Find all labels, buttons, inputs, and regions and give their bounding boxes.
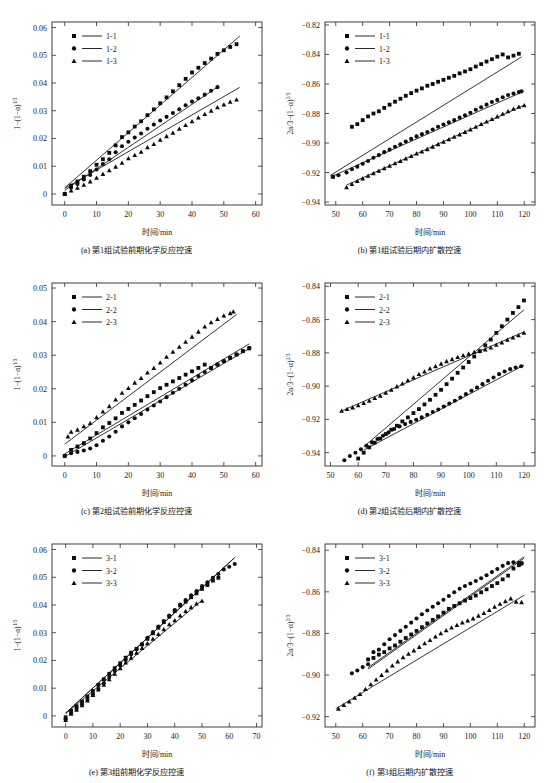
svg-text:120: 120 — [518, 732, 530, 741]
caption-f: (f) 第3组后期内扩散控速 — [273, 765, 546, 777]
svg-text:−0.92: −0.92 — [301, 415, 320, 424]
svg-text:90: 90 — [439, 732, 447, 741]
svg-text:−0.90: −0.90 — [301, 382, 320, 391]
svg-text:90: 90 — [439, 210, 447, 219]
subplot-c: 010203040506000.010.020.030.040.05时间/min… — [0, 261, 273, 522]
svg-text:110: 110 — [490, 471, 502, 480]
svg-text:时间/min: 时间/min — [142, 227, 173, 237]
svg-text:2-2: 2-2 — [379, 306, 390, 315]
svg-text:0.06: 0.06 — [33, 24, 47, 33]
svg-text:−0.84: −0.84 — [301, 50, 320, 59]
svg-text:60: 60 — [252, 471, 260, 480]
svg-text:−0.88: −0.88 — [301, 629, 320, 638]
svg-text:2-3: 2-3 — [379, 318, 390, 327]
svg-text:−0.86: −0.86 — [301, 588, 320, 597]
svg-text:0: 0 — [63, 471, 67, 480]
svg-text:时间/min: 时间/min — [142, 749, 173, 759]
svg-text:−0.86: −0.86 — [301, 80, 320, 89]
svg-text:110: 110 — [491, 210, 503, 219]
svg-text:30: 30 — [156, 210, 164, 219]
svg-text:1-1: 1-1 — [379, 32, 390, 41]
svg-text:60: 60 — [252, 210, 260, 219]
svg-text:40: 40 — [188, 471, 196, 480]
svg-text:3-1: 3-1 — [106, 554, 117, 563]
svg-text:1-3: 1-3 — [106, 57, 117, 66]
svg-text:0.05: 0.05 — [33, 51, 47, 60]
svg-text:50: 50 — [332, 210, 340, 219]
svg-text:2-1: 2-1 — [379, 293, 390, 302]
svg-text:时间/min: 时间/min — [142, 488, 173, 498]
svg-text:3-1: 3-1 — [379, 554, 390, 563]
svg-text:0.02: 0.02 — [33, 134, 47, 143]
svg-text:0.03: 0.03 — [33, 629, 47, 638]
svg-text:−0.90: −0.90 — [301, 671, 320, 680]
svg-text:3-3: 3-3 — [106, 579, 117, 588]
svg-text:时间/min: 时间/min — [415, 749, 446, 759]
svg-text:1-3: 1-3 — [379, 57, 390, 66]
subplot-e: 01020304050607000.010.020.030.040.050.06… — [0, 522, 273, 783]
svg-text:0.05: 0.05 — [33, 573, 47, 582]
svg-text:0.02: 0.02 — [33, 385, 47, 394]
svg-text:−0.92: −0.92 — [301, 713, 320, 722]
svg-text:0.01: 0.01 — [33, 162, 47, 171]
svg-text:3-3: 3-3 — [379, 579, 390, 588]
svg-text:0.04: 0.04 — [33, 318, 47, 327]
svg-text:时间/min: 时间/min — [415, 488, 446, 498]
svg-text:80: 80 — [409, 471, 417, 480]
caption-b: (b) 第1组试验后期内扩散控速 — [273, 243, 546, 255]
caption-e: (e) 第3组前期化学反应控速 — [0, 765, 273, 777]
svg-text:0: 0 — [43, 190, 47, 199]
svg-text:3-2: 3-2 — [106, 567, 117, 576]
svg-text:−0.90: −0.90 — [301, 139, 320, 148]
svg-text:−0.82: −0.82 — [301, 21, 320, 30]
svg-text:50: 50 — [220, 210, 228, 219]
svg-text:40: 40 — [188, 210, 196, 219]
svg-text:2-1: 2-1 — [106, 293, 117, 302]
svg-text:0.04: 0.04 — [33, 79, 47, 88]
svg-text:50: 50 — [220, 471, 228, 480]
svg-text:2α/3−(1−α)2/3: 2α/3−(1−α)2/3 — [285, 92, 295, 134]
svg-text:时间/min: 时间/min — [415, 227, 446, 237]
svg-text:60: 60 — [359, 732, 367, 741]
subplot-f: 5060708090100110120−0.92−0.90−0.88−0.86−… — [273, 522, 546, 783]
svg-text:60: 60 — [225, 732, 233, 741]
svg-text:20: 20 — [124, 471, 132, 480]
caption-d: (d) 第2组试验后期内扩散控速 — [273, 504, 546, 516]
svg-text:50: 50 — [332, 732, 340, 741]
svg-text:1-1: 1-1 — [106, 32, 117, 41]
caption-c: (c) 第2组试验前期化学反应控速 — [0, 504, 273, 516]
subplot-d: 5060708090100110120−0.94−0.92−0.90−0.88−… — [273, 261, 546, 522]
svg-text:120: 120 — [518, 471, 530, 480]
svg-text:70: 70 — [382, 471, 390, 480]
svg-text:100: 100 — [464, 210, 476, 219]
svg-text:3-2: 3-2 — [379, 567, 390, 576]
svg-text:0.06: 0.06 — [33, 546, 47, 555]
svg-text:60: 60 — [354, 471, 362, 480]
svg-text:−0.92: −0.92 — [301, 169, 320, 178]
svg-text:−0.88: −0.88 — [301, 349, 320, 358]
svg-text:30: 30 — [143, 732, 151, 741]
svg-text:50: 50 — [198, 732, 206, 741]
svg-text:70: 70 — [386, 732, 394, 741]
svg-text:50: 50 — [327, 471, 335, 480]
svg-text:0: 0 — [43, 452, 47, 461]
svg-text:20: 20 — [124, 210, 132, 219]
svg-text:1-2: 1-2 — [106, 45, 117, 54]
svg-text:0.04: 0.04 — [33, 601, 47, 610]
svg-text:0: 0 — [43, 712, 47, 721]
svg-text:1−(1−α)1/3: 1−(1−α)1/3 — [12, 97, 22, 129]
svg-text:10: 10 — [89, 732, 97, 741]
svg-text:0.01: 0.01 — [33, 418, 47, 427]
svg-text:−0.84: −0.84 — [301, 282, 320, 291]
figure-root: 010203040506000.010.020.030.040.050.06时间… — [0, 0, 546, 783]
svg-text:2α/3−(1−α)2/3: 2α/3−(1−α)2/3 — [285, 614, 295, 656]
svg-text:−0.86: −0.86 — [301, 316, 320, 325]
svg-text:0.05: 0.05 — [33, 284, 47, 293]
svg-text:100: 100 — [464, 732, 476, 741]
svg-text:−0.94: −0.94 — [301, 449, 320, 458]
svg-text:40: 40 — [171, 732, 179, 741]
svg-text:120: 120 — [518, 210, 530, 219]
svg-text:80: 80 — [413, 732, 421, 741]
svg-text:100: 100 — [463, 471, 475, 480]
subplot-b: 5060708090100110120−0.94−0.92−0.90−0.88−… — [273, 0, 546, 261]
